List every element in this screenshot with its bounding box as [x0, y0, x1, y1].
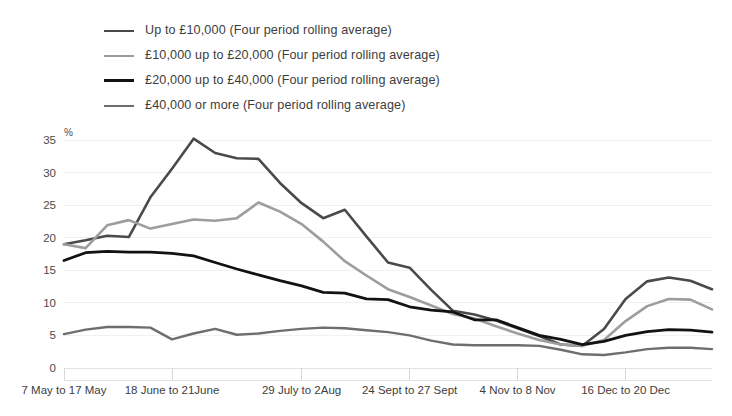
y-axis-tick-label: 25	[43, 199, 56, 211]
line-chart-plot: 05101520253035%7 May to 17 May18 June to…	[0, 0, 732, 416]
y-axis-tick-label: 20	[43, 232, 56, 244]
y-axis-tick-label: 5	[50, 329, 56, 341]
x-axis-tick-label: 18 June to 21June	[125, 384, 220, 396]
x-axis-tick-label: 7 May to 17 May	[21, 384, 106, 396]
x-axis-tick-label: 29 July to 2Aug	[262, 384, 341, 396]
x-axis-tick-label: 16 Dec to 20 Dec	[581, 384, 670, 396]
y-axis-tick-label: 15	[43, 264, 56, 276]
y-axis-tick-label: 10	[43, 297, 56, 309]
chart-container: Up to £10,000 (Four period rolling avera…	[0, 0, 732, 416]
y-axis-unit-label: %	[64, 127, 73, 138]
y-axis-tick-label: 35	[43, 134, 56, 146]
x-axis-tick-label: 4 Nov to 8 Nov	[480, 384, 556, 396]
x-axis-tick-label: 24 Sept to 27 Sept	[362, 384, 458, 396]
series-line-0	[64, 139, 712, 346]
series-line-1	[64, 203, 712, 346]
y-axis-tick-label: 0	[50, 362, 56, 374]
y-axis-tick-label: 30	[43, 167, 56, 179]
